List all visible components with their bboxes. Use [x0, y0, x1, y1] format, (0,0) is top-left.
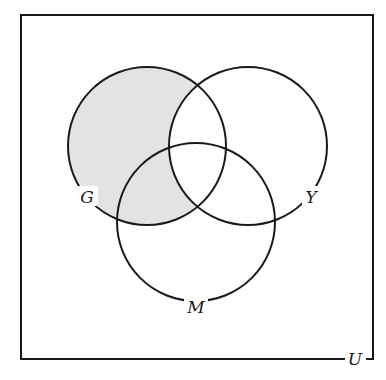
label-g: G	[80, 187, 94, 207]
label-y: Y	[305, 187, 318, 207]
label-m: M	[186, 297, 205, 317]
venn-diagram: G Y M U	[0, 0, 386, 380]
shaded-region-g-not-y	[0, 0, 386, 380]
label-universe: U	[348, 349, 363, 369]
